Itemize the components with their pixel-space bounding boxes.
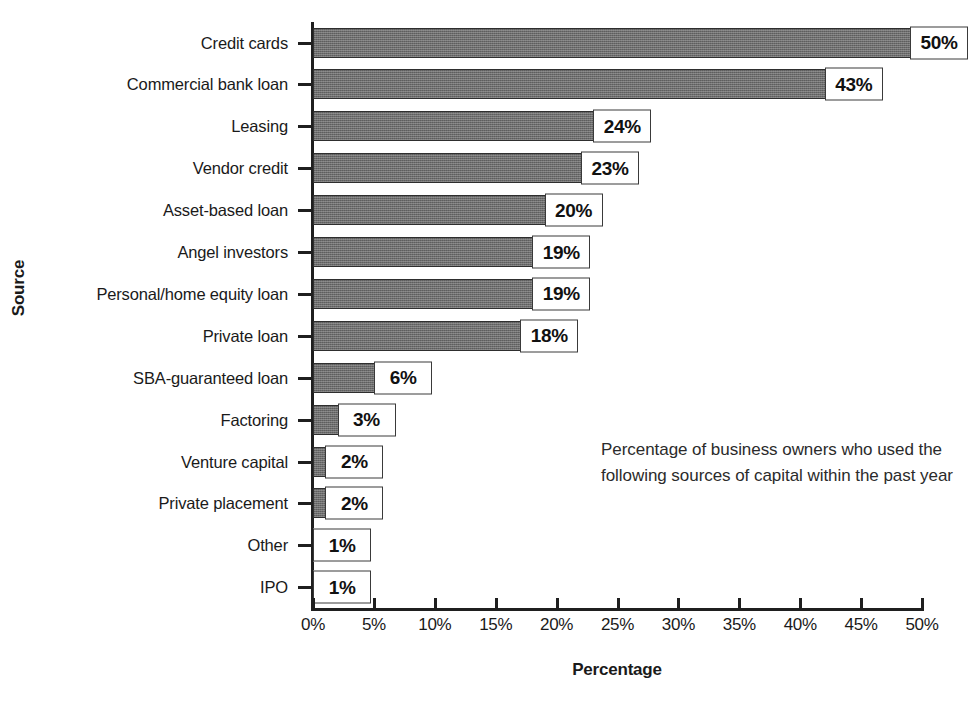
- bar: [313, 237, 544, 267]
- y-axis-tick: [298, 125, 312, 128]
- y-axis-tick: [298, 251, 312, 254]
- bar-value-label: 19%: [532, 236, 590, 269]
- category-label: Angel investors: [177, 243, 288, 262]
- bar-value-label: 3%: [338, 403, 396, 436]
- bar-value-label: 43%: [825, 68, 883, 101]
- plot-area: Credit cards50%Commercial bank loan43%Le…: [0, 0, 970, 706]
- x-axis-tick-label: 35%: [704, 615, 774, 635]
- x-axis-tick: [556, 598, 559, 611]
- x-axis-tick: [312, 598, 315, 611]
- y-axis-tick: [298, 42, 312, 45]
- category-label: SBA-guaranteed loan: [133, 368, 288, 387]
- x-axis-tick: [434, 598, 437, 611]
- bar-row: Other1%: [0, 525, 970, 566]
- y-axis-tick: [298, 377, 312, 380]
- bar: [313, 195, 557, 225]
- category-label: Venture capital: [181, 452, 288, 471]
- bar: [313, 28, 922, 58]
- y-axis-tick: [298, 586, 312, 589]
- bar-row: Vendor credit23%: [0, 148, 970, 189]
- category-label: Commercial bank loan: [127, 75, 288, 94]
- category-label: Personal/home equity loan: [96, 284, 288, 303]
- category-label: Vendor credit: [193, 159, 288, 178]
- bar-value-label: 6%: [374, 361, 432, 394]
- x-axis-tick-label: 10%: [400, 615, 470, 635]
- bar-value-label: 18%: [520, 319, 578, 352]
- category-label: Private loan: [203, 326, 288, 345]
- bar-row: Credit cards50%: [0, 22, 970, 63]
- bar-row: SBA-guaranteed loan6%: [0, 357, 970, 398]
- bar-row: Factoring3%: [0, 399, 970, 440]
- x-axis-tick-label: 30%: [643, 615, 713, 635]
- x-axis-tick-label: 50%: [887, 615, 957, 635]
- category-label: Factoring: [221, 410, 288, 429]
- bar-value-label: 19%: [532, 277, 590, 310]
- category-label: Other: [247, 536, 288, 555]
- x-axis-tick-label: 15%: [461, 615, 531, 635]
- y-axis-tick: [298, 293, 312, 296]
- y-axis-tick: [298, 419, 312, 422]
- category-label: Private placement: [158, 494, 288, 513]
- y-axis-tick: [298, 502, 312, 505]
- x-axis-tick-label: 45%: [826, 615, 896, 635]
- y-axis-tick: [298, 209, 312, 212]
- bar-value-label: 1%: [313, 529, 371, 562]
- bar-row: Private loan18%: [0, 315, 970, 356]
- category-label: Asset-based loan: [163, 201, 288, 220]
- bar: [313, 153, 593, 183]
- x-axis-tick-label: 0%: [278, 615, 348, 635]
- x-axis-tick: [373, 598, 376, 611]
- bar-chart: Source Credit cards50%Commercial bank lo…: [0, 0, 970, 706]
- bar: [313, 111, 605, 141]
- bar-value-label: 50%: [910, 26, 968, 59]
- y-axis-tick: [298, 461, 312, 464]
- x-axis-tick-label: 20%: [522, 615, 592, 635]
- category-label: IPO: [260, 578, 288, 597]
- x-axis-tick-label: 40%: [765, 615, 835, 635]
- bar-row: Asset-based loan20%: [0, 190, 970, 231]
- category-label: Leasing: [231, 117, 288, 136]
- bar-value-label: 2%: [325, 445, 383, 478]
- x-axis-tick: [495, 598, 498, 611]
- x-axis-tick: [738, 598, 741, 611]
- bar-value-label: 20%: [545, 194, 603, 227]
- category-label: Credit cards: [201, 33, 288, 52]
- x-axis-tick-label: 5%: [339, 615, 409, 635]
- x-axis-tick: [921, 598, 924, 611]
- x-axis-tick: [799, 598, 802, 611]
- y-axis-tick: [298, 335, 312, 338]
- bar: [313, 321, 532, 351]
- bar: [313, 279, 544, 309]
- y-axis-tick: [298, 83, 312, 86]
- x-axis-title: Percentage: [311, 660, 923, 680]
- bar-row: Leasing24%: [0, 106, 970, 147]
- bar-row: Commercial bank loan43%: [0, 64, 970, 105]
- bar-value-label: 2%: [325, 487, 383, 520]
- x-axis-tick: [860, 598, 863, 611]
- y-axis-tick: [298, 167, 312, 170]
- bar-value-label: 24%: [593, 110, 651, 143]
- chart-annotation: Percentage of business owners who used t…: [601, 437, 953, 490]
- x-axis-tick: [677, 598, 680, 611]
- bar-row: IPO1%: [0, 567, 970, 608]
- bar-row: Angel investors19%: [0, 232, 970, 273]
- y-axis-tick: [298, 544, 312, 547]
- x-axis-tick-label: 25%: [583, 615, 653, 635]
- bar: [313, 69, 837, 99]
- bar-value-label: 23%: [581, 152, 639, 185]
- x-axis-tick: [617, 598, 620, 611]
- bar-value-label: 1%: [313, 571, 371, 604]
- bar-row: Personal/home equity loan19%: [0, 273, 970, 314]
